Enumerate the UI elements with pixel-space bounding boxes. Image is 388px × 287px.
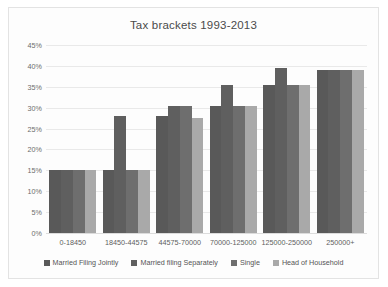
legend-label: Head of Household bbox=[282, 258, 344, 267]
legend-item[interactable]: Single bbox=[231, 258, 260, 267]
x-axis-tick-label: 250000+ bbox=[314, 235, 368, 251]
y-axis-tick-label: 40% bbox=[28, 61, 42, 70]
bar bbox=[328, 70, 340, 233]
bar bbox=[138, 170, 150, 233]
bars-layer bbox=[46, 45, 367, 233]
y-axis-tick-label: 25% bbox=[28, 124, 42, 133]
x-axis-tick-label: 70000-125000 bbox=[207, 235, 261, 251]
bar bbox=[168, 106, 180, 233]
gridline: 0% bbox=[46, 233, 367, 234]
bar bbox=[275, 68, 287, 233]
bar-group bbox=[260, 45, 314, 233]
bar bbox=[221, 85, 233, 233]
legend-item[interactable]: Married Filing Jointly bbox=[44, 258, 119, 267]
x-axis-tick-label: 0-18450 bbox=[46, 235, 100, 251]
x-axis-tick-label: 44575-70000 bbox=[153, 235, 207, 251]
bar bbox=[156, 116, 168, 233]
bar-group bbox=[100, 45, 154, 233]
y-axis-tick-label: 45% bbox=[28, 41, 42, 50]
bar bbox=[103, 170, 115, 233]
legend-label: Single bbox=[240, 258, 260, 267]
bar bbox=[61, 170, 73, 233]
y-axis-tick-label: 0% bbox=[32, 229, 42, 238]
bar bbox=[299, 85, 311, 233]
x-axis-tick-label: 18450-44575 bbox=[100, 235, 154, 251]
bar-group bbox=[153, 45, 207, 233]
bar-group bbox=[207, 45, 261, 233]
bar bbox=[73, 170, 85, 233]
bar bbox=[352, 70, 364, 233]
bar bbox=[317, 70, 329, 233]
bar bbox=[263, 85, 275, 233]
legend-swatch-icon bbox=[44, 260, 50, 266]
chart-legend: Married Filing JointlyMarried filing Sep… bbox=[9, 258, 378, 267]
x-axis-tick-label: 125000-250000 bbox=[260, 235, 314, 251]
bar bbox=[287, 85, 299, 233]
bar bbox=[180, 106, 192, 233]
bar bbox=[114, 116, 126, 233]
x-axis-labels: 0-1845018450-4457544575-7000070000-12500… bbox=[46, 235, 367, 251]
legend-item[interactable]: Head of Household bbox=[273, 258, 344, 267]
bar bbox=[126, 170, 138, 233]
legend-label: Married Filing Jointly bbox=[53, 258, 119, 267]
bar bbox=[192, 118, 204, 233]
legend-swatch-icon bbox=[273, 260, 279, 266]
y-axis-tick-label: 35% bbox=[28, 82, 42, 91]
bar-group bbox=[314, 45, 368, 233]
bar bbox=[49, 170, 61, 233]
y-axis-tick-label: 10% bbox=[28, 187, 42, 196]
legend-label: Married filing Separately bbox=[140, 258, 218, 267]
legend-swatch-icon bbox=[131, 260, 137, 266]
bar bbox=[340, 70, 352, 233]
y-axis-tick-label: 20% bbox=[28, 145, 42, 154]
y-axis-tick-label: 15% bbox=[28, 166, 42, 175]
legend-item[interactable]: Married filing Separately bbox=[131, 258, 218, 267]
plot-area: 0%5%10%15%20%25%30%35%40%45% bbox=[46, 45, 367, 233]
bar-group bbox=[46, 45, 100, 233]
chart-container: Tax brackets 1993-2013 0%5%10%15%20%25%3… bbox=[8, 7, 379, 279]
legend-swatch-icon bbox=[231, 260, 237, 266]
bar bbox=[245, 106, 257, 233]
y-axis-tick-label: 30% bbox=[28, 103, 42, 112]
bar bbox=[85, 170, 97, 233]
bar bbox=[233, 106, 245, 233]
y-axis-tick-label: 5% bbox=[32, 208, 42, 217]
bar bbox=[210, 106, 222, 233]
chart-title: Tax brackets 1993-2013 bbox=[9, 19, 378, 31]
